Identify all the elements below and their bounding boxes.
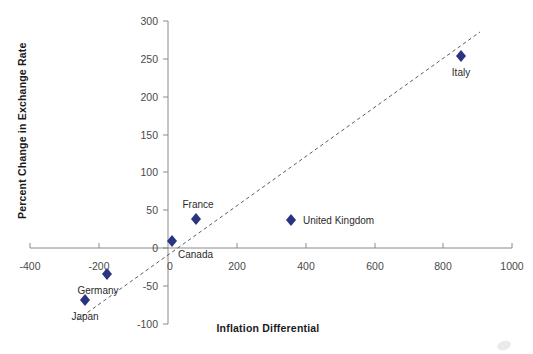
data-points xyxy=(80,50,466,306)
y-tick-label-50: 50 xyxy=(146,204,158,216)
x-tick-label-400: 400 xyxy=(297,260,315,272)
point-label-germany: Germany xyxy=(77,285,118,296)
point-label-united-kingdom: United Kingdom xyxy=(303,215,374,226)
data-point-france[interactable] xyxy=(191,213,201,225)
y-tick-label-neg100: -100 xyxy=(137,318,158,330)
point-label-japan: Japan xyxy=(71,311,98,322)
x-axis-ticks xyxy=(30,243,512,248)
y-tick-label-0: 0 xyxy=(152,242,158,254)
point-label-italy: Italy xyxy=(452,67,470,78)
data-point-italy[interactable] xyxy=(456,50,466,62)
y-axis-title: Percent Change in Exchange Rate xyxy=(16,49,28,219)
point-label-canada: Canada xyxy=(178,249,213,260)
x-tick-label-600: 600 xyxy=(366,260,384,272)
y-axis-ticks xyxy=(163,21,168,324)
y-tick-label-300: 300 xyxy=(140,15,158,27)
trendline xyxy=(77,32,480,320)
point-label-france: France xyxy=(182,199,214,210)
x-tick-label-neg400: -400 xyxy=(19,260,40,272)
y-tick-label-150: 150 xyxy=(140,129,158,141)
x-tick-label-0: 0 xyxy=(167,260,173,272)
scatter-plot-svg: -400 -200 0 200 400 600 800 1000 300 250… xyxy=(0,0,533,354)
y-tick-label-100: 100 xyxy=(140,166,158,178)
x-tick-label-1000: 1000 xyxy=(500,260,524,272)
y-tick-label-250: 250 xyxy=(140,53,158,65)
y-tick-label-neg50: -50 xyxy=(143,280,158,292)
x-axis-title: Inflation Differential xyxy=(168,322,368,334)
x-tick-label-200: 200 xyxy=(228,260,246,272)
chart-figure: -400 -200 0 200 400 600 800 1000 300 250… xyxy=(0,0,533,354)
y-tick-label-200: 200 xyxy=(140,91,158,103)
data-point-united-kingdom[interactable] xyxy=(286,214,296,226)
x-tick-label-800: 800 xyxy=(434,260,452,272)
